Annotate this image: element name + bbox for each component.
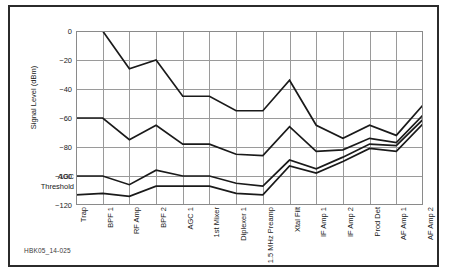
x-axis-tick-label: AGC 1 — [186, 207, 195, 230]
x-axis-ticks: TrapBPF 1RF AmpBPF 2AGC 11st MixerDiplex… — [76, 207, 423, 265]
x-axis-tick-label: Xtal Filt — [293, 207, 302, 232]
y-axis-tick-label: −40 — [59, 85, 72, 94]
x-axis-tick-label: AF Amp 2 — [426, 207, 435, 240]
x-axis-tick-label: Diplexer 1 — [239, 207, 248, 241]
x-axis-tick-label: BPF 2 — [159, 207, 168, 228]
y-axis-tick-label: −120 — [55, 201, 72, 210]
plot-frame — [76, 31, 423, 205]
y-axis-tick-label: −80 — [59, 143, 72, 152]
x-axis-tick-label: IF Amp 1 — [319, 207, 328, 237]
x-axis-tick-label: IF Amp 2 — [346, 207, 355, 237]
y-axis-tick-label: −60 — [59, 114, 72, 123]
x-axis-tick-label: Prod Det — [373, 207, 382, 237]
y-axis-tick-label: 0 — [68, 27, 72, 36]
agc-threshold-line2: Threshold — [40, 182, 74, 192]
plot-area — [76, 31, 423, 205]
agc-threshold-annotation: AGC Threshold — [40, 172, 74, 192]
figure-caption: HBK05_14-025 — [24, 247, 71, 254]
x-axis-tick-label: RF Amp — [132, 207, 141, 234]
y-axis-title: Signal Level (dBm) — [29, 48, 38, 148]
agc-threshold-line1: AGC — [40, 172, 74, 182]
x-axis-tick-label: Trap — [79, 207, 88, 222]
figure-frame: 0−20−40−60−80−100−120 Signal Level (dBm)… — [8, 5, 439, 267]
x-axis-tick-label: AF Amp 1 — [399, 207, 408, 240]
x-axis-tick-label: BPF 1 — [106, 207, 115, 228]
x-axis-tick-label: 1st Mixer — [212, 207, 221, 237]
x-axis-tick-label: 1.5 MHz Preamp — [266, 207, 275, 263]
y-axis-tick-label: −20 — [59, 56, 72, 65]
